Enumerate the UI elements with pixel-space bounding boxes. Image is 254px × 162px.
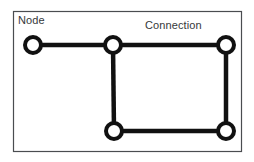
- node-bottom-center[interactable]: [106, 123, 122, 139]
- node-left[interactable]: [25, 37, 41, 53]
- node-top-center[interactable]: [105, 37, 121, 53]
- node-label: Node: [18, 14, 45, 27]
- diagram-canvas: Node Connection: [0, 0, 254, 162]
- node-top-right[interactable]: [218, 37, 234, 53]
- connection-label: Connection: [145, 19, 202, 32]
- node-bottom-right[interactable]: [218, 123, 234, 139]
- edge-top-center-to-bottom-center[interactable]: [113, 45, 114, 131]
